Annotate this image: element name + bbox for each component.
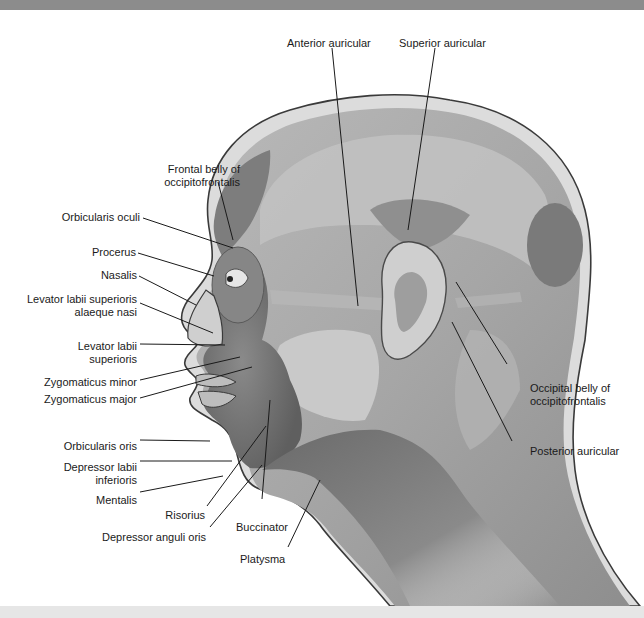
label-platysma: Platysma	[240, 553, 285, 566]
label-levator-labii-superioris: Levator labii superioris	[0, 340, 137, 366]
label-dli-line1: Depressor labii	[0, 461, 137, 474]
label-occipital-belly: Occipital belly of occipitofrontalis	[530, 382, 610, 408]
label-dli-line2: inferioris	[0, 474, 137, 487]
label-depressor-labii-inferioris: Depressor labii inferioris	[0, 461, 137, 487]
top-border-bar	[0, 0, 644, 10]
label-occipital-belly-line2: occipitofrontalis	[530, 395, 610, 408]
label-frontal-belly-line2: occipitofrontalis	[150, 176, 240, 189]
label-orbicularis-oris: Orbicularis oris	[0, 440, 137, 453]
label-lls-alaeque-line1: Levator labii superioris	[0, 293, 137, 306]
label-depressor-anguli-oris: Depressor anguli oris	[60, 531, 206, 544]
label-risorius: Risorius	[100, 509, 205, 522]
occipital-belly-shape	[527, 203, 583, 287]
label-anterior-auricular: Anterior auricular	[287, 37, 371, 50]
label-orbicularis-oculi: Orbicularis oculi	[0, 211, 140, 224]
label-lls-line2: superioris	[0, 353, 137, 366]
label-levator-labii-superioris-alaeque-nasi: Levator labii superioris alaeque nasi	[0, 293, 137, 319]
label-zygomaticus-major: Zygomaticus major	[0, 393, 137, 406]
label-superior-auricular: Superior auricular	[399, 37, 486, 50]
label-buccinator: Buccinator	[236, 521, 288, 534]
label-procerus: Procerus	[0, 246, 136, 259]
label-lls-line1: Levator labii	[0, 340, 137, 353]
label-lls-alaeque-line2: alaeque nasi	[0, 306, 137, 319]
label-mentalis: Mentalis	[0, 494, 137, 507]
label-posterior-auricular: Posterior auricular	[530, 445, 619, 458]
anatomy-figure: Frontal belly of occipitofrontalis Orbic…	[0, 10, 644, 606]
label-frontal-belly: Frontal belly of occipitofrontalis	[150, 163, 240, 189]
label-occipital-belly-line1: Occipital belly of	[530, 382, 610, 395]
bottom-border-bar	[0, 606, 644, 618]
label-frontal-belly-line1: Frontal belly of	[150, 163, 240, 176]
label-zygomaticus-minor: Zygomaticus minor	[0, 376, 137, 389]
label-nasalis: Nasalis	[0, 269, 137, 282]
